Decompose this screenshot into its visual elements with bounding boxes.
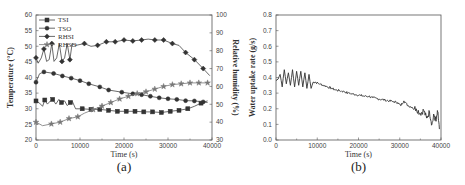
y-tick-label-b: 0.1 [263, 121, 272, 128]
y2-axis-label-a: Relative humidity (%) [231, 39, 240, 116]
y-tick-label-b: 0.5 [263, 58, 272, 65]
rhso-marker [134, 91, 140, 96]
tsi-marker [60, 101, 64, 105]
y-axis-label-a: Temperature (°C) [6, 47, 15, 108]
rhsi-marker [113, 39, 118, 44]
legend-tsi-marker [45, 18, 49, 22]
y2-tick-label-a: 70 [216, 65, 224, 72]
x-tick-label-b: 10000 [308, 142, 326, 149]
y-tick-label-a: 20 [25, 136, 33, 143]
y-tick-label-b: 0.2 [263, 105, 272, 112]
x-axis-label-b: Time (s) [345, 150, 372, 159]
y2-tick-label-a: 50 [216, 101, 224, 108]
tsi-marker [80, 107, 84, 111]
tsi-marker [115, 109, 119, 113]
rhsi-marker [34, 55, 39, 60]
tsi-marker [124, 109, 128, 113]
y-tick-label-a: 55 [25, 27, 33, 34]
chart-a: 0100002000030000400002025303540455055603… [6, 11, 240, 174]
tso-marker [87, 82, 91, 86]
tso-marker [120, 90, 124, 94]
y-tick-label-a: 30 [25, 105, 33, 112]
x-tick-label-b: 0 [274, 142, 278, 149]
y2-tick-label-a: 90 [216, 29, 224, 36]
series-water-uptake-rate [276, 70, 439, 129]
rhso-marker [75, 114, 81, 119]
tsi-marker [168, 109, 172, 113]
x-tick-label-a: 10000 [71, 142, 89, 149]
tsi-marker [151, 110, 155, 114]
rhso-marker [108, 100, 114, 105]
tso-marker [192, 99, 196, 103]
tso-marker [201, 100, 205, 104]
legend-tso-marker [45, 26, 49, 30]
tso-marker [184, 99, 188, 103]
tso-marker [166, 97, 170, 101]
x-axis-label-a: Time (s) [110, 150, 137, 159]
rhsi-marker [170, 41, 175, 46]
y-tick-label-a: 45 [25, 58, 33, 65]
legend-rhsi-marker [45, 34, 50, 39]
tsi-marker [43, 98, 47, 102]
rhso-marker [161, 83, 167, 88]
legend-rhso-marker [44, 42, 50, 47]
y-tick-label-a: 35 [25, 89, 33, 96]
rhso-marker [178, 81, 184, 86]
rhsi-marker [130, 38, 135, 43]
tso-marker [148, 94, 152, 98]
rhso-marker [170, 82, 176, 87]
figure: 0100002000030000400002025303540455055603… [0, 0, 465, 185]
x-tick-label-b: 30000 [391, 142, 409, 149]
legend-label-rhsi: RHSI [58, 33, 75, 41]
rhsi-marker [161, 38, 166, 43]
x-tick-label-a: 0 [34, 142, 38, 149]
legend-label-tso: TSO [58, 25, 71, 33]
rhso-marker [152, 86, 158, 91]
tso-marker [69, 76, 73, 80]
y2-tick-label-a: 100 [216, 11, 227, 18]
y2-tick-label-a: 60 [216, 83, 224, 90]
rhsi-marker [41, 46, 46, 51]
x-tick-label-b: 40000 [432, 142, 450, 149]
x-tick-label-a: 20000 [115, 142, 133, 149]
tso-marker [98, 85, 102, 89]
y-tick-label-b: 0.8 [263, 11, 272, 18]
y-tick-label-a: 50 [25, 43, 33, 50]
tsi-marker [133, 109, 137, 113]
y2-tick-label-a: 30 [216, 136, 224, 143]
rhso-marker [196, 80, 202, 85]
plot-frame-b [276, 15, 441, 140]
rhsi-marker [67, 57, 72, 62]
tsi-marker [142, 110, 146, 114]
tso-marker [60, 74, 64, 78]
tsi-marker [159, 111, 163, 115]
tso-marker [42, 70, 46, 74]
x-tick-label-a: 30000 [159, 142, 177, 149]
panel-label-a: (a) [117, 159, 131, 174]
y-tick-label-b: 0.6 [263, 43, 272, 50]
y-tick-label-b: 0.4 [263, 74, 272, 81]
y-tick-label-b: 0.3 [263, 89, 272, 96]
rhso-marker [126, 93, 132, 98]
tso-marker [175, 97, 179, 101]
y-tick-label-a: 40 [25, 74, 33, 81]
tsi-marker [51, 97, 55, 101]
rhsi-marker [139, 38, 144, 43]
tso-marker [78, 79, 82, 83]
y-tick-label-a: 25 [25, 121, 33, 128]
y2-tick-label-a: 80 [216, 47, 224, 54]
rhsi-marker [82, 41, 87, 46]
tsi-marker [177, 108, 181, 112]
chart-b: 0100002000030000400000.00.10.20.30.40.50… [248, 11, 450, 174]
y-tick-label-b: 0.7 [263, 27, 272, 34]
tsi-marker [68, 101, 72, 105]
y-tick-label-a: 60 [25, 11, 33, 18]
y-axis-label-b: Water uptake rate (g/s) [248, 38, 257, 118]
y2-tick-label-a: 40 [216, 118, 224, 125]
rhso-marker [66, 116, 72, 121]
rhso-marker [205, 80, 211, 85]
tso-marker [107, 88, 111, 92]
tso-marker [157, 96, 161, 100]
x-tick-label-b: 20000 [349, 142, 367, 149]
rhsi-marker [104, 39, 109, 44]
